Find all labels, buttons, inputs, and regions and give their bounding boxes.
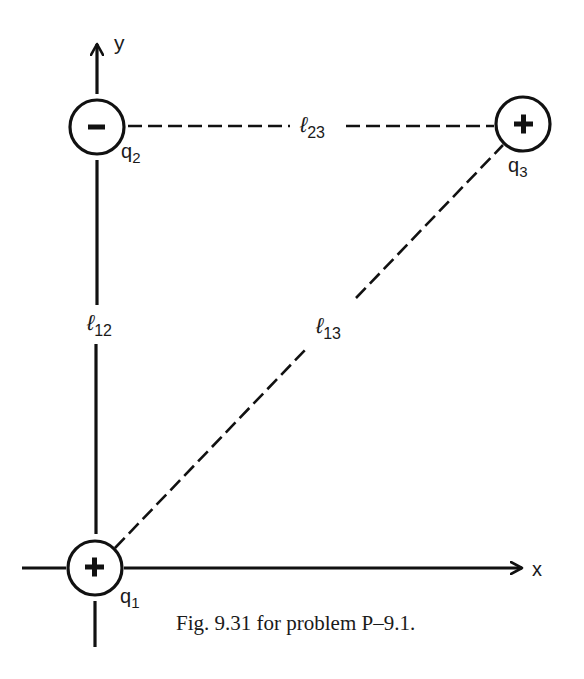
dashed-line-l13-lower	[115, 350, 305, 548]
y-axis: y	[95, 31, 125, 647]
dashed-line-l13-upper	[356, 145, 503, 298]
charge-q2-label: q2	[121, 140, 140, 166]
distance-l12: ℓ12	[86, 310, 112, 339]
plus-icon	[85, 558, 104, 577]
charge-diagram: y x ℓ23 ℓ12 ℓ13 q2	[0, 0, 584, 679]
charge-q3: q3	[496, 97, 550, 180]
charge-q3-label: q3	[508, 154, 527, 180]
minus-icon	[88, 125, 105, 130]
charge-q2: q2	[70, 100, 140, 166]
label-l13: ℓ13	[315, 313, 341, 342]
charge-q1-label: q1	[120, 585, 139, 611]
label-l12: ℓ12	[86, 310, 112, 339]
y-axis-label: y	[114, 31, 125, 54]
plus-icon	[514, 115, 533, 134]
x-axis-label: x	[532, 558, 542, 580]
distance-l23: ℓ23	[128, 112, 494, 141]
figure-caption: Fig. 9.31 for problem P–9.1.	[176, 611, 415, 635]
label-l23: ℓ23	[299, 112, 325, 141]
charge-q1: q1	[68, 541, 139, 611]
distance-l13: ℓ13	[115, 145, 503, 548]
